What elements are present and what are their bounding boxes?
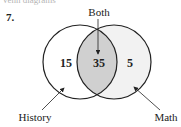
label-history: History (19, 111, 53, 123)
partial-header-text: Venn diagrams (2, 0, 56, 5)
both-count: 35 (93, 56, 105, 70)
problem-number: 7. (6, 11, 15, 23)
history-arrow-icon (42, 88, 64, 110)
history-only-count: 15 (60, 56, 72, 70)
math-arrow-icon (134, 87, 160, 110)
math-only-count: 5 (127, 56, 133, 70)
label-math: Math (154, 111, 178, 123)
label-both: Both (88, 6, 110, 18)
